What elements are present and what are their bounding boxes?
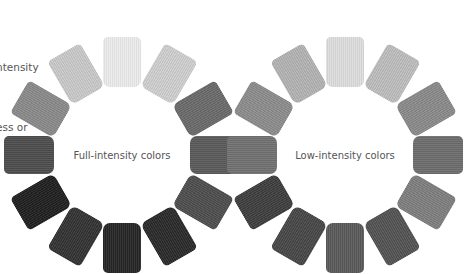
color-swatch xyxy=(227,136,277,174)
wheel-label: Low-intensity colors xyxy=(295,150,395,161)
color-swatch xyxy=(326,223,364,273)
color-swatch xyxy=(103,223,141,273)
color-swatch xyxy=(413,136,463,174)
caption-line-1: ntensity xyxy=(0,57,39,77)
color-swatch xyxy=(326,37,364,87)
wheel-label: Full-intensity colors xyxy=(73,150,170,161)
color-swatch xyxy=(4,136,54,174)
color-swatch xyxy=(103,37,141,87)
